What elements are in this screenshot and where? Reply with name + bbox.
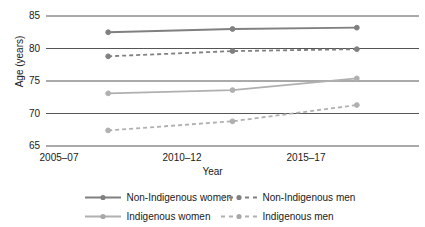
series-line: [108, 105, 357, 130]
data-point: [354, 47, 359, 52]
legend-swatch-solid-dark: [85, 192, 121, 203]
legend-row-1: Non-Indigenous women Non-Indigenous men: [0, 188, 425, 207]
y-tick-label-75: 75: [14, 76, 40, 86]
data-point: [106, 30, 111, 35]
data-point: [354, 76, 359, 81]
y-tick-label-65: 65: [14, 141, 40, 151]
data-series-layer: [106, 25, 359, 133]
plot-svg: [46, 6, 419, 152]
data-point: [106, 54, 111, 59]
legend-row-2: Indigenous women Indigenous men: [0, 207, 425, 226]
legend-swatch-solid-light: [85, 211, 121, 222]
data-point: [230, 27, 235, 32]
legend-item-non-indigenous-men[interactable]: Non-Indigenous men: [213, 192, 363, 203]
y-tick-label-70: 70: [14, 109, 40, 119]
series-indigenous-men: [106, 103, 359, 133]
legend-swatch-dashed-light: [221, 211, 257, 222]
x-tick-label-2: 2010–12: [147, 152, 217, 163]
data-point: [230, 119, 235, 124]
legend-label-indigenous-men: Indigenous men: [263, 211, 334, 222]
chart-legend: Non-Indigenous women Non-Indigenous men: [0, 188, 425, 226]
legend-item-indigenous-women[interactable]: Indigenous women: [63, 211, 213, 222]
x-axis-title: Year: [0, 166, 425, 177]
legend-item-non-indigenous-women[interactable]: Non-Indigenous women: [63, 192, 213, 203]
data-point: [354, 103, 359, 108]
life-expectancy-chart: Age (years) 85 80 75 70 65 2005–07 2010–…: [0, 0, 425, 227]
legend-label-non-indigenous-men: Non-Indigenous men: [263, 192, 356, 203]
x-tick-label-1: 2005–07: [24, 152, 94, 163]
y-tick-label-80: 80: [14, 44, 40, 54]
y-axis-tick-labels: 85 80 75 70 65: [14, 0, 40, 160]
data-point: [106, 91, 111, 96]
data-point: [230, 88, 235, 93]
data-point: [230, 49, 235, 54]
legend-label-indigenous-women: Indigenous women: [127, 211, 211, 222]
gridlines: [46, 16, 419, 146]
legend-item-indigenous-men[interactable]: Indigenous men: [213, 211, 363, 222]
series-indigenous-women: [106, 76, 359, 96]
data-point: [106, 128, 111, 133]
legend-swatch-dashed-dark: [221, 192, 257, 203]
x-tick-label-3: 2015–17: [271, 152, 341, 163]
y-tick-label-85: 85: [14, 11, 40, 21]
data-point: [354, 25, 359, 30]
series-non-indigenous-women: [106, 25, 359, 34]
plot-area: [46, 6, 419, 152]
